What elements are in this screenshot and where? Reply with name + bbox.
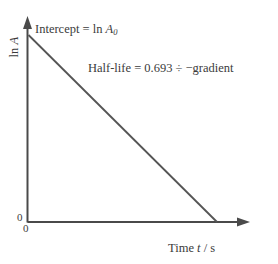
half-life-annotation: Half-life = 0.693 ÷ −gradient [88, 61, 234, 75]
decay-plot-figure: Intercept = ln A0 Half-life = 0.693 ÷ −g… [0, 0, 278, 264]
y-axis-title-symbol: A [7, 37, 21, 45]
intercept-annotation: Intercept = ln A0 [35, 22, 117, 38]
intercept-annotation-text: Intercept = ln [35, 22, 106, 36]
x-axis-arrowhead [237, 218, 250, 227]
x-axis-origin-tick-label: 0 [23, 222, 29, 234]
x-axis-title-suffix: / s [201, 241, 216, 255]
intercept-subscript: 0 [113, 27, 117, 37]
y-axis-title-prefix: ln [7, 45, 21, 58]
y-axis-arrowhead [23, 16, 32, 29]
y-axis-origin-tick-label: 0 [17, 211, 23, 223]
y-axis-title: ln A [7, 25, 21, 69]
x-axis-title: Time t / s [168, 241, 215, 255]
x-axis-title-prefix: Time [168, 241, 197, 255]
plot-canvas [0, 0, 278, 264]
